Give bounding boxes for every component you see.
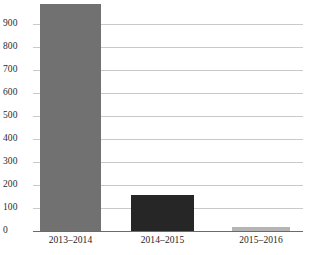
bar-2014-2015 [131, 195, 194, 231]
y-tick-label: 500 [3, 110, 31, 120]
x-tick-label: 2013–2014 [26, 235, 116, 246]
y-tick-label: 700 [3, 64, 31, 74]
y-tick-label: 100 [3, 202, 31, 212]
y-tick-label: 400 [3, 133, 31, 143]
bars-group [33, 1, 303, 231]
x-tick-label: 2014–2015 [118, 235, 208, 246]
y-axis-tick-labels: 0100200300400500600700800900 [3, 0, 31, 255]
y-tick-label: 900 [3, 18, 31, 28]
y-tick-label: 200 [3, 179, 31, 189]
y-tick-label: 300 [3, 156, 31, 166]
bar-chart: 0100200300400500600700800900 2013–201420… [0, 0, 311, 255]
x-axis-line [33, 231, 303, 232]
y-tick-label: 0 [3, 225, 31, 235]
plot-area [33, 1, 303, 231]
x-tick-label: 2015–2016 [216, 235, 306, 246]
y-tick-label: 600 [3, 87, 31, 97]
y-tick-label: 800 [3, 41, 31, 51]
bar-2013-2014 [40, 4, 101, 231]
